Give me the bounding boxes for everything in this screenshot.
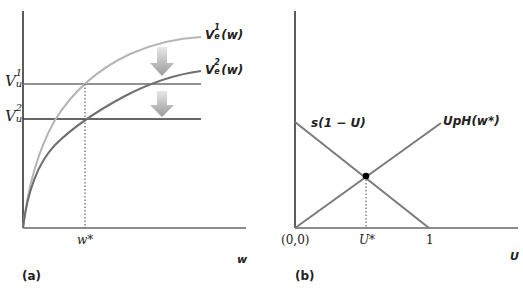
vu1-label-sup: 1 <box>16 67 22 78</box>
ve2-label-sup: 2 <box>214 58 220 67</box>
panel-a-x-axis-label: w <box>237 253 247 266</box>
origin-label: (0,0) <box>281 233 309 247</box>
shift-down-arrow-icon <box>150 47 174 76</box>
panel-a-caption: (a) <box>22 269 41 283</box>
vu2-label: V2u <box>5 107 26 125</box>
panel-b-x-axis-label: U <box>510 250 519 263</box>
vu1-label-base: V <box>5 72 16 90</box>
vu1-label: V1u <box>5 72 26 90</box>
ve2-label-sub: e <box>214 67 219 76</box>
ve2-label-arg: (w) <box>221 63 243 77</box>
s-one-minus-u-label: s(1 − U) <box>311 116 366 130</box>
panel-a <box>23 11 246 228</box>
panel-b-caption: (b) <box>295 269 315 283</box>
ve1-label: V1e(w) <box>205 28 243 42</box>
uph-label: UpH(w*) <box>443 114 500 128</box>
ve1-label-sub: e <box>214 32 219 41</box>
ve2-label-base: V <box>205 63 214 77</box>
s-one-minus-u-line <box>295 122 429 228</box>
equilibrium-point <box>363 173 370 180</box>
ve1-label-arg: (w) <box>221 28 243 42</box>
ve1-label-sup: 1 <box>214 23 220 32</box>
u-star-tick-label: U* <box>359 233 375 247</box>
ve1-label-base: V <box>205 28 214 42</box>
one-tick-label: 1 <box>426 233 434 247</box>
ve1-curve <box>23 37 201 228</box>
shift-down-arrow-icon <box>150 91 174 117</box>
diagram-canvas <box>0 0 523 293</box>
vu1-label-sub: u <box>16 78 22 89</box>
ve2-curve <box>23 71 201 228</box>
ve2-label: V2e(w) <box>205 63 243 77</box>
vu2-label-sub: u <box>16 113 22 124</box>
vu2-label-sup: 2 <box>16 102 22 113</box>
w-star-tick-label: w* <box>77 233 93 247</box>
vu2-label-base: V <box>5 107 16 125</box>
